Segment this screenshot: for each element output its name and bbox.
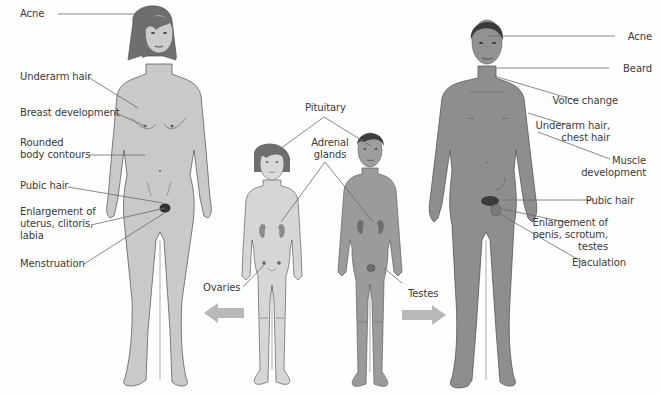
boy-figure [338,133,402,386]
label-enlargement-f: Enlargement of uterus, clitoris, labia [20,206,96,242]
label-menstruation: Menstruation [20,258,85,270]
label-pubic-hair-f: Pubic hair [20,180,68,192]
puberty-diagram: AcneUnderarm hairBreast developmentRound… [0,0,660,395]
label-enlargement-m: Enlargement of penis, scrotum, testes [532,217,608,253]
label-ovaries: Ovaries [203,282,240,294]
label-adrenal-glands: Adrenal glands [310,137,350,161]
label-muscle-development: Muscle development [581,155,646,179]
label-voice-change: Voice change [553,95,618,107]
label-rounded-body-contours: Rounded body contours [20,137,90,161]
label-pubic-hair-m: Pubic hair [586,195,634,207]
diagram-canvas [0,0,660,395]
adult-male-figure [429,20,537,388]
label-acne-m: Acne [628,31,652,43]
label-pituitary: Pituitary [305,102,345,114]
label-ejaculation: Ejaculation [572,257,626,269]
arrow-left-icon [204,303,244,323]
arrow-right-icon [402,305,446,325]
label-underarm-hair-f: Underarm hair [20,71,91,83]
label-breast-development: Breast development [20,107,120,119]
label-testes: Testes [408,288,438,300]
label-underarm-chest-hair: Underarm hair, chest hair [536,120,610,144]
label-acne-f: Acne [20,8,44,20]
girl-figure [242,144,302,385]
label-beard: Beard [623,63,652,75]
